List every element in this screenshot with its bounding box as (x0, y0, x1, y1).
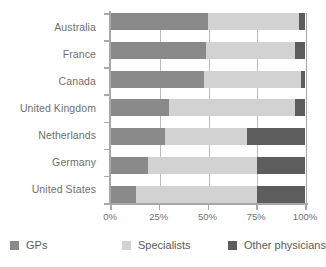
legend-swatch-icon (228, 241, 237, 250)
y-axis-tick (104, 122, 110, 124)
bar-segment[interactable] (295, 99, 305, 116)
bar-row[interactable] (111, 128, 305, 145)
bar-segment[interactable] (299, 13, 305, 30)
x-axis-line (104, 203, 308, 205)
bar-row[interactable] (111, 186, 305, 203)
y-axis-label: United States (0, 176, 102, 203)
bar-segment[interactable] (247, 128, 305, 145)
bar-row[interactable] (111, 13, 305, 30)
legend-item[interactable]: GPs (10, 236, 47, 254)
y-axis-tick (104, 149, 110, 151)
bar-segment[interactable] (111, 128, 165, 145)
y-axis-tick (104, 94, 110, 96)
bar-row[interactable] (111, 157, 305, 174)
bar-row[interactable] (111, 99, 305, 116)
legend-label: Other physicians (244, 239, 326, 251)
y-axis-category-labels: AustraliaFranceCanadaUnited KingdomNethe… (0, 13, 102, 203)
x-axis-tick (208, 204, 210, 210)
x-axis-tick (305, 204, 307, 210)
bar-segment[interactable] (111, 13, 208, 30)
y-axis-label: United Kingdom (0, 94, 102, 121)
bar-row[interactable] (111, 42, 305, 59)
y-axis-label: Canada (0, 67, 102, 94)
legend-item[interactable]: Specialists (122, 236, 191, 254)
bar-segment[interactable] (148, 157, 257, 174)
bar-segment[interactable] (295, 42, 305, 59)
bar-segment[interactable] (206, 42, 295, 59)
plot-area (110, 13, 305, 203)
bar-segment[interactable] (165, 128, 246, 145)
x-axis-tick (256, 204, 258, 210)
x-axis-tick (159, 204, 161, 210)
y-axis-label: Australia (0, 13, 102, 40)
x-axis-tick-label: 75% (247, 211, 266, 222)
legend-swatch-icon (10, 241, 19, 250)
bar-segment[interactable] (257, 186, 306, 203)
x-axis-tick (110, 204, 112, 210)
y-axis-tick (104, 67, 110, 69)
bar-segment[interactable] (257, 157, 306, 174)
y-axis-label: France (0, 40, 102, 67)
legend-label: Specialists (138, 239, 191, 251)
bar-segment[interactable] (301, 71, 305, 88)
y-axis-tick (104, 40, 110, 42)
x-axis-tick-label: 100% (293, 211, 317, 222)
legend-label: GPs (26, 239, 47, 251)
bar-segment[interactable] (111, 71, 204, 88)
bar-segment[interactable] (136, 186, 256, 203)
bar-series-group (111, 13, 305, 203)
x-axis-tick-label: 25% (149, 211, 168, 222)
gridline (306, 13, 307, 203)
bar-row[interactable] (111, 71, 305, 88)
chart-legend: GPsSpecialistsOther physicians (10, 236, 320, 256)
y-axis-tick (104, 13, 110, 15)
bar-segment[interactable] (204, 71, 301, 88)
bar-segment[interactable] (111, 99, 169, 116)
legend-item[interactable]: Other physicians (228, 236, 326, 254)
y-axis-label: Netherlands (0, 122, 102, 149)
legend-swatch-icon (122, 241, 131, 250)
bar-segment[interactable] (208, 13, 299, 30)
y-axis-tick (104, 176, 110, 178)
bar-segment[interactable] (111, 157, 148, 174)
bar-segment[interactable] (169, 99, 295, 116)
bar-segment[interactable] (111, 186, 136, 203)
bar-segment[interactable] (111, 42, 206, 59)
y-axis-label: Germany (0, 149, 102, 176)
x-axis-tick-label: 50% (198, 211, 217, 222)
x-axis-tick-label: 0% (103, 211, 117, 222)
